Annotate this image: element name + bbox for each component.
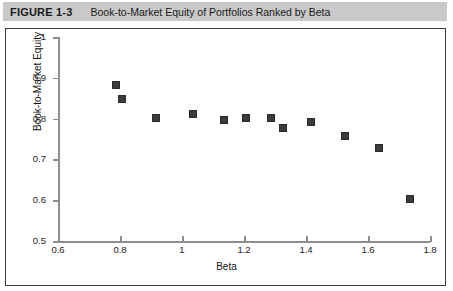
x-axis-tick [430, 236, 432, 242]
y-axis-tick-label: 0.7 [0, 153, 46, 164]
y-axis-tick [53, 119, 59, 121]
y-axis-line [58, 37, 60, 242]
x-axis-tick-label: 1.8 [410, 244, 450, 255]
data-point-marker [189, 110, 197, 118]
x-axis-tick [58, 236, 60, 242]
y-axis-tick [53, 78, 59, 80]
x-axis-tick [182, 236, 184, 242]
x-axis-tick [306, 236, 308, 242]
y-axis-tick [53, 159, 59, 161]
data-point-marker [307, 118, 315, 126]
figure-container: FIGURE 1-3 Book-to-Market Equity of Port… [0, 0, 453, 291]
data-point-marker [118, 95, 126, 103]
y-axis-tick [53, 200, 59, 202]
x-axis-tick-label: 0.8 [100, 244, 140, 255]
data-point-marker [341, 132, 349, 140]
x-axis-tick-label: 1.6 [348, 244, 388, 255]
x-axis-tick [244, 236, 246, 242]
data-point-marker [152, 114, 160, 122]
x-axis-tick [120, 236, 122, 242]
data-point-marker [220, 116, 228, 124]
figure-header-band: FIGURE 1-3 Book-to-Market Equity of Port… [3, 2, 447, 21]
data-point-marker [267, 114, 275, 122]
x-axis-tick-label: 1.2 [224, 244, 264, 255]
scatter-plot-area: Book-to-Market Equity Beta 0.50.60.70.80… [6, 29, 445, 285]
y-axis-tick-label: 1 [0, 31, 46, 42]
x-axis-tick-label: 1.4 [286, 244, 326, 255]
x-axis-title: Beta [6, 261, 447, 272]
chart-frame: Book-to-Market Equity Beta 0.50.60.70.80… [5, 28, 446, 286]
y-axis-title: Book-to-Market Equity [32, 0, 43, 167]
data-point-marker [279, 124, 287, 132]
y-axis-tick [53, 37, 59, 39]
y-axis-tick-label: 0.9 [0, 72, 46, 83]
data-point-marker [112, 81, 120, 89]
data-point-marker [406, 195, 414, 203]
y-axis-tick-label: 0.6 [0, 194, 46, 205]
figure-title: Book-to-Market Equity of Portfolios Rank… [91, 6, 331, 18]
y-axis-tick-label: 0.8 [0, 113, 46, 124]
data-point-marker [242, 114, 250, 122]
data-point-marker [375, 144, 383, 152]
x-axis-tick-label: 0.6 [38, 244, 78, 255]
x-axis-tick-label: 1 [162, 244, 202, 255]
x-axis-tick [368, 236, 370, 242]
